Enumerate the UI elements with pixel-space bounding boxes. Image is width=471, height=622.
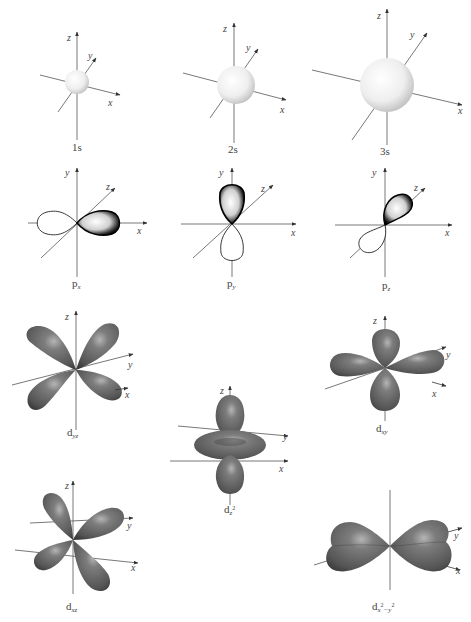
axis-label-z: z (261, 183, 265, 194)
orbital-dxz-drawing (10, 478, 160, 598)
s-sphere (217, 66, 255, 104)
d-lobe (27, 326, 76, 370)
axis-label-z: z (223, 23, 227, 34)
axis-label-y: y (372, 167, 376, 178)
axis-label-y: y (128, 359, 132, 370)
orbital-label-dxy: dxy (376, 422, 388, 436)
orbital-label-2s: 2s (228, 143, 238, 155)
orbital-dyz: z y x (5, 308, 155, 433)
orbital-label-px: px (72, 277, 81, 291)
axis-label-y: y (410, 29, 414, 40)
axis-label-y: y (246, 42, 250, 53)
axis-label-y: y (65, 167, 69, 178)
orbital-label-dxz: dxz (66, 600, 77, 614)
axis-label-x: x (432, 388, 436, 399)
orbital-1s: z y x (30, 20, 150, 150)
axis-label-y: y (88, 50, 92, 61)
orbital-dx2y2: y x (310, 490, 470, 595)
orbital-dz2: z y x (170, 383, 310, 508)
orbital-dxy: z y x (318, 313, 468, 423)
axis-label-y: y (283, 431, 287, 442)
axis-label-z: z (220, 385, 224, 396)
axis-label-z: z (373, 315, 377, 326)
axis-label-x: x (291, 227, 295, 238)
axis-label-x: x (137, 225, 141, 236)
p-lobe-negative (359, 225, 386, 253)
orbital-dxy-drawing (318, 313, 468, 423)
d-lobe (43, 493, 73, 540)
axis-label-y: y (219, 167, 223, 178)
orbital-py-drawing (178, 165, 308, 280)
orbital-pz: y z x (330, 165, 470, 280)
orbital-dz2-drawing (170, 383, 310, 508)
axis-label-z: z (67, 32, 71, 43)
axis-label-x: x (445, 227, 449, 238)
axis-label-x: x (280, 104, 284, 115)
d-lobe (76, 370, 122, 400)
d-lobe (73, 508, 124, 540)
d-lobe (370, 368, 400, 411)
orbital-px: y z x (20, 165, 160, 280)
p-lobe-positive (220, 185, 245, 224)
orbital-2s-drawing (180, 15, 310, 150)
orbital-py: y z x (178, 165, 308, 280)
p-lobe-positive (77, 211, 120, 235)
orbital-label-dyz: dyz (67, 426, 78, 440)
orbital-label-dx2y2: dx2−y2 (372, 600, 394, 614)
axis-label-x: x (458, 105, 462, 116)
orbital-px-drawing (20, 165, 160, 280)
orbital-dxz: z y x (10, 478, 160, 598)
orbital-3s: z y x (310, 5, 471, 150)
d-lobe (27, 370, 76, 410)
orbital-label-pz: pz (382, 279, 390, 293)
axis-label-x: x (125, 389, 129, 400)
d-lobe (73, 540, 110, 591)
axis-label-x: x (456, 565, 460, 576)
axis-label-z: z (65, 311, 69, 322)
p-lobe-negative (37, 211, 77, 235)
orbital-label-dz2: dz2 (224, 503, 235, 517)
p-lobe-positive (384, 194, 412, 225)
orbital-dx2y2-drawing (310, 490, 470, 595)
d-lobe-left (326, 522, 390, 571)
orbital-2s: z y x (180, 15, 310, 150)
axis-label-z: z (65, 480, 69, 491)
axis-label-z: z (106, 181, 110, 192)
axis-label-y: y (454, 530, 458, 541)
orbital-pz-drawing (330, 165, 470, 280)
axis-label-y: y (127, 520, 131, 531)
axis-label-y: y (446, 349, 450, 360)
orbital-1s-drawing (30, 20, 150, 150)
orbital-label-1s: 1s (72, 141, 82, 153)
axis-label-z: z (377, 10, 381, 21)
orbital-label-py: py (227, 277, 236, 291)
axis-label-x: x (279, 463, 283, 474)
s-sphere (360, 58, 414, 112)
orbital-dyz-drawing (5, 308, 155, 433)
axis-label-x: x (131, 562, 135, 573)
s-sphere (65, 70, 89, 94)
orbital-3s-drawing (310, 5, 471, 150)
axis-label-z: z (414, 182, 418, 193)
axis-label-x: x (108, 97, 112, 108)
orbital-label-3s: 3s (380, 145, 390, 157)
